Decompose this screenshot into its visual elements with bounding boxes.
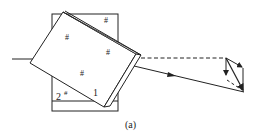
label-face-1: 1	[93, 87, 98, 98]
tilted-prism-plate	[30, 11, 141, 107]
sharp-mark: #	[104, 16, 108, 25]
sharp-mark: #	[106, 48, 110, 57]
diagram-canvas: # # # # # 2 1 (a)	[0, 0, 256, 137]
refracted-ray	[134, 66, 244, 92]
figure-caption: (a)	[125, 119, 136, 131]
vector-triangle	[226, 58, 243, 92]
sharp-mark: #	[64, 89, 68, 97]
arrow-icon	[167, 72, 176, 77]
sharp-mark: #	[80, 69, 84, 78]
sharp-mark: #	[65, 33, 69, 42]
label-face-2: 2	[56, 91, 61, 102]
